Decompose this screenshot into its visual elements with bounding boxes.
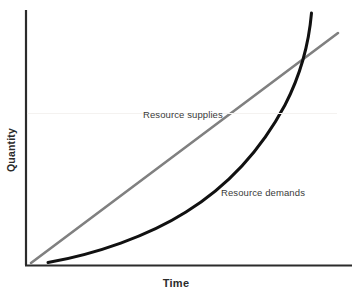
series-line-resource-supplies <box>31 33 338 263</box>
chart-plot-area <box>0 0 352 300</box>
series-line-resource-demands <box>48 13 312 263</box>
series-label-resource-demands: Resource demands <box>221 188 305 198</box>
chart-figure: Quantity Time Resource supplies Resource… <box>0 0 352 300</box>
series-label-resource-supplies: Resource supplies <box>143 110 223 120</box>
y-axis-label: Quantity <box>0 108 22 192</box>
y-axis-label-text: Quantity <box>6 128 17 172</box>
x-axis-label: Time <box>0 278 352 289</box>
